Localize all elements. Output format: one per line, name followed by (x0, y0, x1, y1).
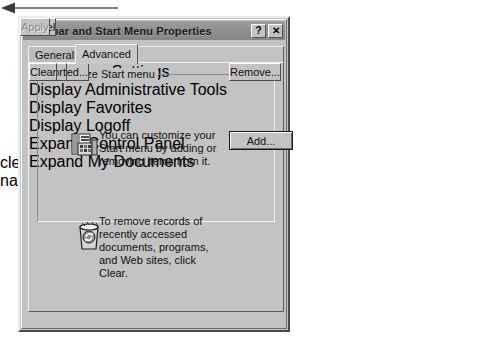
tab-advanced[interactable]: Advanced (75, 44, 138, 64)
help-icon[interactable]: ? (251, 24, 266, 38)
start-menu-customize-icon (71, 133, 99, 159)
customize-description: You can customize your Start menu by add… (99, 129, 221, 168)
tab-strip-filler (133, 46, 284, 63)
add-button[interactable]: Add... (229, 131, 293, 150)
close-icon[interactable]: ✕ (268, 24, 283, 38)
taskbar-start-menu-properties-dialog: Taskbar and Start Menu Properties ? ✕ Ge… (18, 16, 290, 332)
clear-button[interactable]: Clear (29, 63, 57, 81)
remove-button[interactable]: Remove... (229, 63, 281, 81)
clear-records-description: To remove records of recently accessed d… (99, 215, 227, 280)
title-bar[interactable]: Taskbar and Start Menu Properties ? ✕ (23, 21, 285, 40)
apply-button[interactable]: Apply (20, 18, 50, 36)
dialog-title: Taskbar and Start Menu Properties (27, 25, 249, 37)
tab-strip: General Advanced (28, 44, 284, 63)
tab-general[interactable]: General (28, 46, 81, 63)
advanced-tab-page: Customize Start menu You can customize y… (28, 62, 284, 312)
